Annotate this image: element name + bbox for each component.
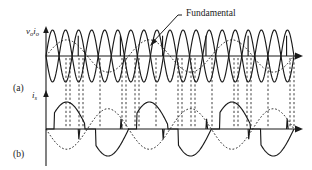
panel-a-caption: (a) [13,84,24,94]
panel-a-y-axis-label: voio [26,27,39,38]
panel-b-caption: (b) [13,150,24,160]
panel-a-y-axis-label-i-sub: o [36,30,39,37]
panel-b-y-axis-label: is [32,91,37,102]
panel-b-y-axis-label-i-sub: s [35,94,38,101]
fundamental-annotation-label: Fundamental [186,9,236,19]
waveform-figure [0,0,312,170]
